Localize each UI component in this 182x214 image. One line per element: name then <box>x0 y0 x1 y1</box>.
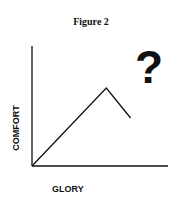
x-axis-label: GLORY <box>52 184 84 194</box>
data-line <box>32 88 131 166</box>
plot-area <box>0 0 182 214</box>
question-mark-annotation: ? <box>135 40 163 94</box>
y-axis-label: COMFORT <box>11 105 21 151</box>
